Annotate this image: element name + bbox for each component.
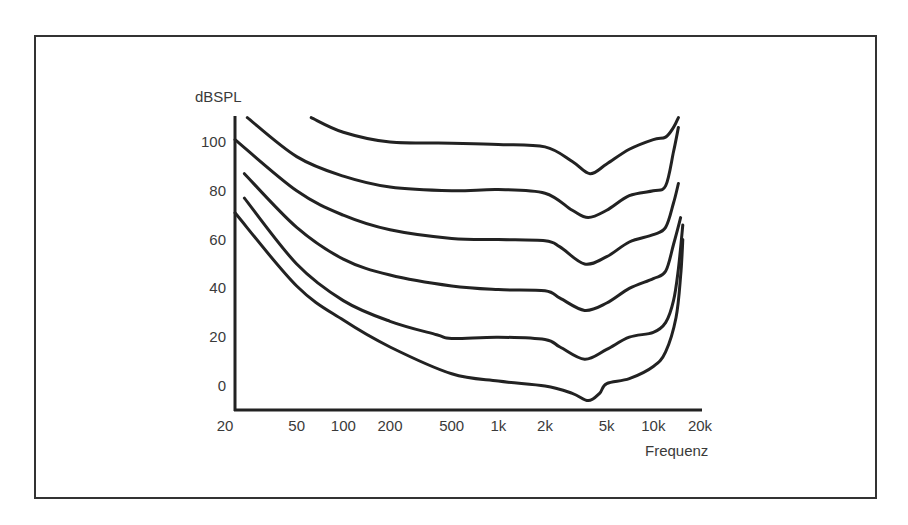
y-tick-label: 40 bbox=[209, 279, 226, 296]
x-tick-label: 20k bbox=[688, 417, 713, 434]
x-tick-label: 50 bbox=[288, 417, 305, 434]
x-tick-label: 20 bbox=[217, 417, 234, 434]
y-tick-label: 80 bbox=[209, 182, 226, 199]
y-tick-label: 20 bbox=[209, 328, 226, 345]
y-axis-title: dBSPL bbox=[195, 88, 242, 105]
x-tick-label: 1k bbox=[490, 417, 506, 434]
x-tick-label: 10k bbox=[641, 417, 666, 434]
equal-loudness-chart: 100806040200 20501002005001k2k5k10k20k d… bbox=[0, 0, 908, 525]
y-tick-label: 0 bbox=[218, 377, 226, 394]
y-tick-label: 60 bbox=[209, 231, 226, 248]
x-tick-label: 2k bbox=[537, 417, 553, 434]
x-tick-label: 200 bbox=[377, 417, 402, 434]
x-tick-label: 500 bbox=[439, 417, 464, 434]
x-tick-label: 100 bbox=[331, 417, 356, 434]
y-tick-label: 100 bbox=[201, 133, 226, 150]
x-axis-title: Frequenz bbox=[645, 442, 708, 459]
x-tick-label: 5k bbox=[599, 417, 615, 434]
